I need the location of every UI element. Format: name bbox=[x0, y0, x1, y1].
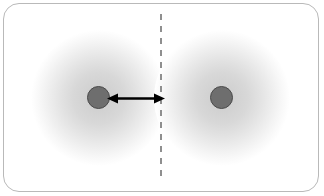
radius-measurement-arrow bbox=[106, 88, 166, 109]
arrow-head-right-icon bbox=[154, 93, 165, 103]
figure-root: Atomic radius defined as half the intern… bbox=[0, 0, 324, 196]
arrow-head-left-icon bbox=[107, 93, 118, 103]
nucleus-right bbox=[210, 86, 233, 109]
